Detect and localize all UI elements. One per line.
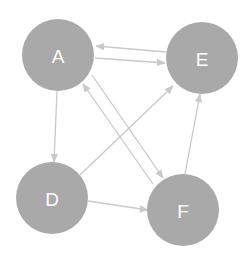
edge-a-to-e <box>95 58 165 63</box>
edge-f-to-a <box>83 84 153 184</box>
edge-a-to-d <box>54 91 57 162</box>
directed-graph-diagram: AEDF <box>0 0 252 256</box>
node-e: E <box>166 22 238 94</box>
node-label: D <box>45 189 59 210</box>
node-label: E <box>196 49 209 70</box>
edge-d-to-f <box>88 201 148 210</box>
nodes-layer: AEDF <box>16 19 238 246</box>
node-label: A <box>52 46 65 67</box>
edge-a-to-f <box>92 75 163 178</box>
edge-e-to-a <box>96 46 166 52</box>
node-d: D <box>16 162 88 234</box>
edge-f-to-e <box>185 94 200 174</box>
node-f: F <box>147 174 219 246</box>
node-label: F <box>177 201 189 222</box>
node-a: A <box>22 19 94 91</box>
